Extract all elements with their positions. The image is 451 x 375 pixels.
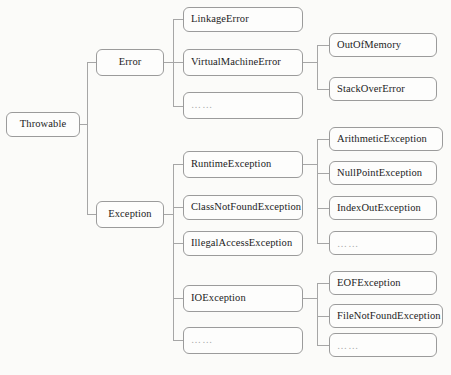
node-label: VirtualMachineError [191, 57, 281, 68]
node-label: …… [191, 335, 213, 345]
edge-exception-to-ioexception [173, 298, 183, 299]
node-stackovererror[interactable]: StackOverError [329, 77, 437, 101]
edge-trunk-to-error [87, 62, 96, 63]
node-label: StackOverError [337, 84, 405, 95]
node-label: …… [337, 239, 359, 249]
edge-io-to-ellipsis [317, 345, 329, 346]
edge-error-to-virtualmachineerror [173, 62, 183, 63]
node-runtimeexception[interactable]: RuntimeException [183, 151, 303, 178]
node-ioexception[interactable]: IOException [183, 285, 303, 312]
node-label: NullPointException [337, 168, 422, 179]
node-arithmeticexception[interactable]: ArithmeticException [329, 127, 443, 151]
node-label: IndexOutException [337, 203, 421, 214]
node-ioexception-ellipsis[interactable]: …… [329, 333, 437, 357]
node-exception-ellipsis[interactable]: …… [183, 327, 303, 354]
node-outofmemory[interactable]: OutOfMemory [329, 33, 437, 57]
edge-io-stub [303, 298, 317, 299]
node-label: LinkageError [191, 14, 249, 25]
node-label: …… [191, 100, 213, 110]
edge-runtime-to-ellipsis [317, 243, 329, 244]
edge-exception-stub [164, 214, 173, 215]
edge-exception-to-runtimeexception [173, 164, 183, 165]
node-label: IOException [191, 293, 246, 304]
edge-vme-trunk [317, 45, 318, 89]
edge-runtime-to-nullpointexception [317, 173, 329, 174]
edge-error-to-linkageerror [173, 19, 183, 20]
node-eofexception[interactable]: EOFException [329, 271, 437, 295]
node-runtimeexception-ellipsis[interactable]: …… [329, 231, 437, 255]
edge-io-to-filenotfoundexception [317, 316, 329, 317]
edge-error-stub [164, 62, 173, 63]
edge-trunk-to-exception [87, 214, 96, 215]
edge-vme-stub [303, 62, 317, 63]
node-label: Error [119, 57, 142, 68]
edge-root-trunk [87, 62, 88, 215]
node-label: FileNotFoundException [337, 311, 441, 322]
node-throwable[interactable]: Throwable [6, 112, 80, 137]
node-label: …… [337, 341, 359, 351]
node-label: ArithmeticException [337, 134, 427, 145]
node-filenotfoundexception[interactable]: FileNotFoundException [329, 304, 443, 328]
edge-vme-to-stackovererror [317, 89, 329, 90]
node-indexoutexception[interactable]: IndexOutException [329, 196, 437, 220]
class-hierarchy-diagram: Throwable Error Exception LinkageError V… [0, 0, 451, 375]
node-label: EOFException [337, 278, 401, 289]
node-exception[interactable]: Exception [96, 201, 164, 228]
node-illegalaccessexception[interactable]: IllegalAccessException [183, 231, 303, 256]
node-error[interactable]: Error [96, 49, 164, 76]
edge-exception-trunk [173, 164, 174, 340]
node-label: RuntimeException [191, 159, 271, 170]
edge-error-to-ellipsis [173, 106, 183, 107]
node-classnotfoundexception[interactable]: ClassNotFoundException [183, 195, 303, 220]
edge-vme-to-outofmemory [317, 45, 329, 46]
node-label: Throwable [20, 119, 66, 130]
edge-exception-to-illegalaccessexception [173, 243, 183, 244]
edge-runtime-to-indexoutexception [317, 208, 329, 209]
node-nullpointexception[interactable]: NullPointException [329, 161, 437, 185]
edge-runtime-trunk [317, 139, 318, 243]
node-virtualmachineerror[interactable]: VirtualMachineError [183, 49, 303, 76]
edge-io-trunk [317, 283, 318, 345]
node-label: Exception [108, 209, 151, 220]
node-linkageerror[interactable]: LinkageError [183, 7, 303, 32]
edge-io-to-eofexception [317, 283, 329, 284]
node-label: ClassNotFoundException [191, 202, 301, 213]
edge-exception-to-classnotfoundexception [173, 207, 183, 208]
edge-runtime-stub [303, 164, 317, 165]
node-label: OutOfMemory [337, 40, 401, 51]
node-error-ellipsis[interactable]: …… [183, 92, 303, 119]
edge-exception-to-ellipsis [173, 340, 183, 341]
edge-runtime-to-arithmeticexception [317, 139, 329, 140]
node-label: IllegalAccessException [191, 238, 292, 249]
